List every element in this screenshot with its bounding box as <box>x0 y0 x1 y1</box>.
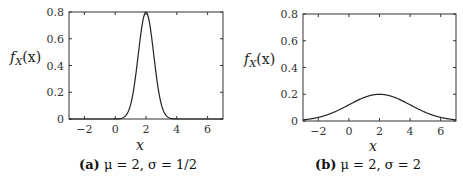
y-tick-label: 0.2 <box>281 88 299 101</box>
y-tick-label: 0.8 <box>281 8 299 21</box>
y-tick-label: 0.2 <box>47 86 65 99</box>
y-tick-label: 0.4 <box>47 60 65 73</box>
y-tick-label: 0.6 <box>281 35 299 48</box>
axes-b: −2024600.20.40.60.8 <box>281 8 457 138</box>
y-tick-label: 0 <box>57 113 64 126</box>
x-axis-label-b: x <box>369 138 377 154</box>
x-tick-label: 4 <box>173 123 180 136</box>
caption-a: (a) μ = 2, σ = 1/2 <box>79 157 197 172</box>
y-axis-label-a: fX(x) <box>9 49 41 67</box>
plot-frame-b <box>303 14 456 121</box>
x-tick-label: 0 <box>112 123 119 136</box>
x-tick-label: 4 <box>407 125 414 138</box>
figure: −2024600.20.40.60.8 fX(x) x (a) μ = 2, σ… <box>0 0 463 181</box>
pdf-curve-b <box>303 94 456 120</box>
y-axis-label-b: fX(x) <box>243 51 275 69</box>
caption-b: (b) μ = 2, σ = 2 <box>315 157 421 172</box>
y-tick-label: 0 <box>291 115 298 128</box>
x-tick-label: −2 <box>76 123 92 136</box>
y-tick-label: 0.6 <box>47 33 65 46</box>
pdf-curve-a <box>69 12 223 119</box>
x-tick-label: −2 <box>310 125 326 138</box>
y-tick-label: 0.4 <box>281 62 299 75</box>
panel-b: −2024600.20.40.60.8 fX(x) x (b) μ = 2, σ… <box>243 8 456 172</box>
x-tick-label: 0 <box>345 125 352 138</box>
x-tick-label: 2 <box>376 125 383 138</box>
x-tick-label: 6 <box>204 123 211 136</box>
plot-frame-a <box>69 12 223 119</box>
x-axis-label-a: x <box>136 137 144 153</box>
y-tick-label: 0.8 <box>47 6 65 19</box>
x-tick-label: 6 <box>437 125 444 138</box>
axes-a: −2024600.20.40.60.8 <box>47 6 224 136</box>
panel-a: −2024600.20.40.60.8 fX(x) x (a) μ = 2, σ… <box>9 6 223 172</box>
x-tick-label: 2 <box>143 123 150 136</box>
